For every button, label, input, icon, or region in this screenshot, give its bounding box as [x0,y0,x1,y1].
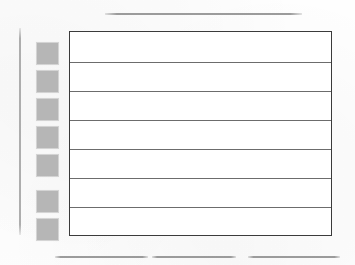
marker-square [37,219,58,240]
document-page [0,0,355,265]
marker-square [37,191,58,212]
table-row [70,120,331,149]
data-table [69,31,332,236]
marker-square [37,43,58,64]
left-margin-rule [19,28,21,235]
table-row [70,62,331,91]
table-row [70,91,331,120]
marker-square [37,127,58,148]
table-row [70,149,331,178]
bottom-rule-center [152,256,236,258]
table-row [70,178,331,207]
table-row [70,32,331,62]
bottom-rule-right [248,256,340,258]
marker-square [37,99,58,120]
marker-square [37,71,58,92]
top-rule [105,13,302,15]
table-row [70,207,331,237]
bottom-rule-left [55,256,148,258]
marker-square [37,155,58,176]
